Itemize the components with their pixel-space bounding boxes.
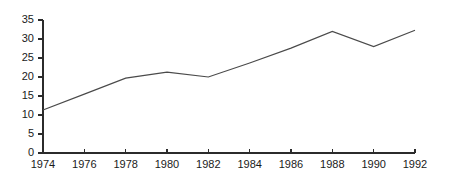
x-axis-tick-label: 1980 [155,158,179,170]
x-axis-tick-label: 1974 [31,158,55,170]
y-axis-tick-label: 20 [22,70,34,82]
y-axis-tick-label: 15 [22,89,34,101]
x-axis-tick-label: 1988 [320,158,344,170]
x-axis-tick-label: 1992 [403,158,427,170]
line-chart: 05101520253035 1974197619781980198219841… [0,0,449,183]
x-axis-tick-label: 1978 [113,158,137,170]
x-axis-tick-label: 1990 [361,158,385,170]
y-axis-tick-label: 25 [22,51,34,63]
y-axis-tick-label: 10 [22,108,34,120]
x-axis-tick-label: 1986 [279,158,303,170]
x-axis-tick-label: 1984 [237,158,261,170]
chart-background [0,0,449,183]
y-axis-tick-label: 35 [22,13,34,25]
y-axis-tick-label: 5 [28,127,34,139]
x-axis-tick-label: 1976 [72,158,96,170]
chart-canvas: 05101520253035 1974197619781980198219841… [0,0,449,183]
x-axis-tick-label: 1982 [196,158,220,170]
y-axis-tick-label: 30 [22,32,34,44]
y-axis-tick-label: 0 [28,146,34,158]
